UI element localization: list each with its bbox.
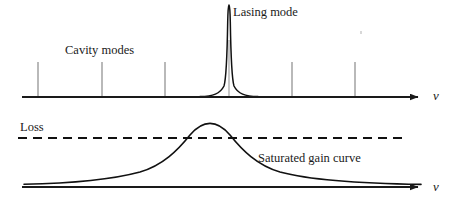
lasing-mode-label: Lasing mode <box>233 6 298 19</box>
top-axis-variable-label: ν <box>433 89 439 102</box>
laser-gain-figure: Lasing mode Cavity modes Loss Saturated … <box>0 0 457 207</box>
figure-canvas <box>0 0 457 207</box>
cavity-mode-ticks <box>38 62 355 97</box>
bottom-axis-variable-label: ν <box>433 180 439 193</box>
saturated-gain-curve <box>24 123 421 184</box>
scan-artifact-speck <box>360 31 362 34</box>
loss-label: Loss <box>20 121 44 134</box>
saturated-gain-curve-label: Saturated gain curve <box>258 152 361 165</box>
cavity-modes-label: Cavity modes <box>65 44 134 57</box>
